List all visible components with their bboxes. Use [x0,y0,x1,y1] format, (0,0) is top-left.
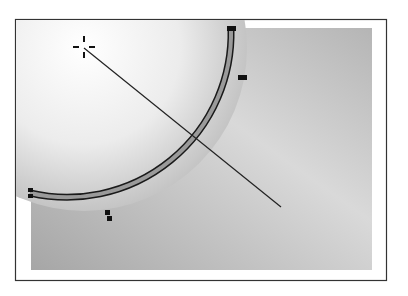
illustration-canvas [0,0,408,296]
anchor-point-left-2[interactable] [28,194,33,198]
anchor-point-right[interactable] [238,75,247,80]
anchor-point-left[interactable] [28,188,33,192]
anchor-point-bottom-2[interactable] [107,216,112,221]
anchor-point-top[interactable] [227,26,236,31]
anchor-point-bottom[interactable] [105,210,110,215]
